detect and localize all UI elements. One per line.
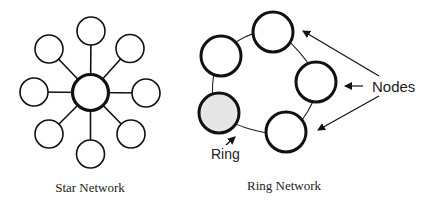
star-leaf-node bbox=[20, 78, 48, 106]
star-leaf-node bbox=[35, 120, 63, 148]
star-leaf-node bbox=[35, 35, 63, 63]
star-hub-node bbox=[73, 75, 109, 111]
ring-node bbox=[253, 12, 293, 52]
star-network: Star Network bbox=[20, 17, 160, 195]
star-leaf-node bbox=[116, 35, 144, 63]
ring-node-shaded bbox=[199, 93, 239, 133]
ring-network-caption: Ring Network bbox=[247, 178, 322, 193]
ring-node bbox=[201, 36, 241, 76]
star-leaf-node bbox=[117, 120, 145, 148]
ring-label: Ring bbox=[211, 146, 240, 162]
nodes-arrow-bottom bbox=[318, 96, 379, 130]
network-topologies-diagram: Star Network Nodes Ring Ring Network bbox=[0, 0, 428, 204]
ring-nodes bbox=[199, 12, 336, 152]
ring-arrow bbox=[226, 137, 235, 145]
ring-node bbox=[296, 62, 336, 102]
ring-node bbox=[266, 112, 306, 152]
star-network-caption: Star Network bbox=[55, 180, 125, 195]
ring-network: Nodes Ring Ring Network bbox=[199, 12, 415, 193]
star-leaf-node bbox=[132, 79, 160, 107]
star-leaf-node bbox=[77, 140, 105, 168]
star-leaf-node bbox=[77, 17, 105, 45]
nodes-label: Nodes bbox=[372, 78, 415, 95]
